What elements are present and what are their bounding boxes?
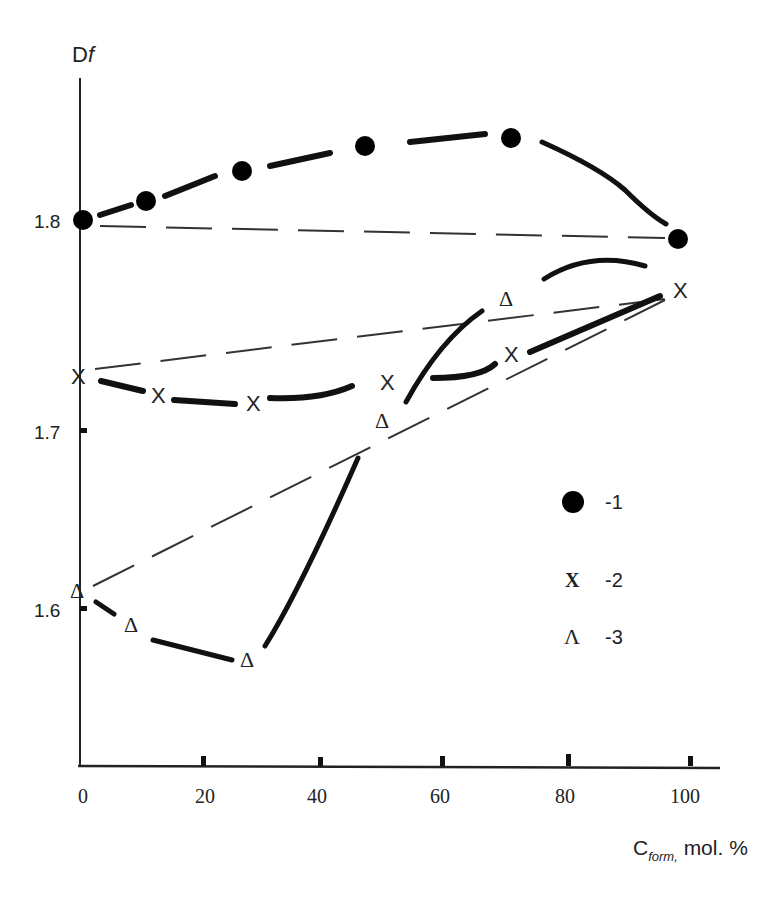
data-point-circle — [355, 136, 375, 156]
legend-label: -2 — [605, 569, 623, 591]
data-point-triangle: Δ — [240, 647, 254, 672]
legend-circle-icon — [562, 491, 584, 513]
x-tick-label: 20 — [195, 785, 215, 807]
data-point-triangle: Δ — [70, 578, 84, 603]
x-tick-label: 40 — [307, 785, 327, 807]
series-2-markers: X X X X X X — [71, 278, 688, 416]
y-tick-label: 1.8 — [34, 211, 60, 232]
series-1-curve — [100, 134, 666, 224]
x-tick-label: 80 — [555, 785, 575, 807]
legend-label: -3 — [605, 626, 623, 648]
data-point-circle — [232, 161, 252, 181]
reference-lines — [93, 226, 665, 586]
data-point-x: X — [504, 342, 519, 367]
data-point-circle — [668, 229, 688, 249]
x-tick-label: 60 — [430, 785, 450, 807]
x-axis-title: Cform, mol. % — [633, 836, 748, 864]
data-point-triangle: Δ — [375, 408, 389, 433]
y-axis-title: Df — [72, 42, 97, 67]
legend: -1 X -2 Λ -3 — [562, 491, 623, 649]
data-point-circle — [73, 210, 93, 230]
x-tick-label: 0 — [78, 785, 88, 807]
data-point-circle — [136, 191, 156, 211]
x-axis — [78, 766, 720, 768]
data-point-circle — [501, 128, 521, 148]
legend-x-icon: X — [565, 569, 580, 591]
legend-triangle-icon: Λ — [564, 624, 580, 649]
series-1-markers — [73, 128, 688, 249]
x-ticks: 0 20 40 60 80 100 — [78, 754, 700, 807]
y-tick-label: 1.7 — [34, 422, 60, 443]
legend-label: -1 — [605, 491, 623, 513]
y-tick-label: 1.6 — [34, 600, 60, 621]
data-point-triangle: Δ — [499, 286, 513, 311]
data-point-triangle: Δ — [124, 612, 138, 637]
data-point-x: X — [151, 383, 166, 408]
chart: 1.8 1.7 1.6 0 20 40 60 80 100 Df Cform, … — [0, 0, 784, 898]
data-point-x: X — [673, 278, 688, 303]
data-point-x: X — [71, 364, 86, 389]
series-3-curve — [96, 260, 645, 660]
x-tick-label: 100 — [670, 785, 700, 807]
data-point-x: X — [246, 391, 261, 416]
data-point-x: X — [380, 370, 395, 395]
